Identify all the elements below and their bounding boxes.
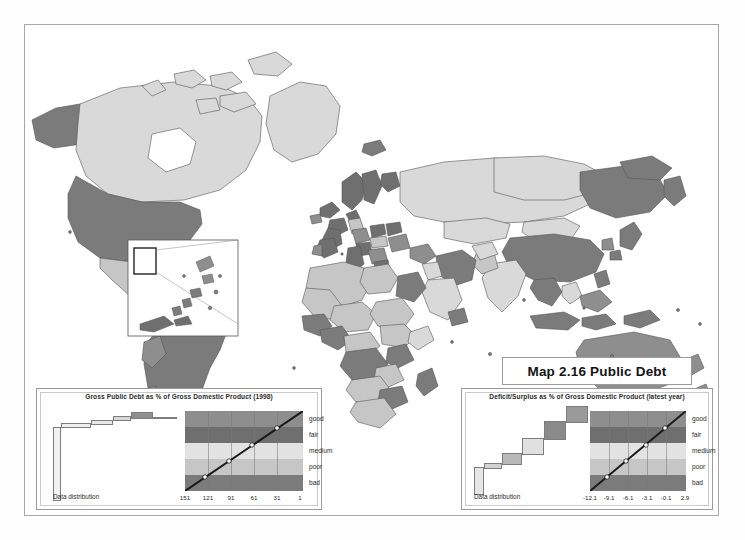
- legend-left-tick-4: 31: [267, 494, 287, 501]
- legend-right-class-bad: bad: [692, 479, 703, 486]
- legend-left-tick-3: 61: [244, 494, 264, 501]
- legend-left-tick-5: 1: [290, 494, 310, 501]
- legend-left-class-medium: medium: [309, 447, 332, 454]
- legend-right-distribution: [474, 405, 588, 497]
- legend-left-title: Gross Public Debt as % of Gross Domestic…: [37, 393, 321, 400]
- legend-right-class-poor: poor: [692, 463, 705, 470]
- legend-left-distribution: [53, 411, 177, 503]
- legend-left-class-poor: poor: [309, 463, 322, 470]
- legend-left-diagonal: [185, 411, 303, 491]
- legend-left-class-good: good: [309, 415, 324, 422]
- legend-left-class-fair: fair: [309, 431, 318, 438]
- legend-left-tick-1: 121: [198, 494, 218, 501]
- legend-right-tick-5: 2.9: [674, 494, 696, 501]
- legend-left-class-bad: bad: [309, 479, 320, 486]
- legend-right-class-medium: medium: [692, 447, 715, 454]
- map-title: Map 2.16 Public Debt: [527, 364, 666, 379]
- map-page: Map 2.16 Public Debt Gross Public Debt a…: [0, 0, 745, 540]
- map-title-box: Map 2.16 Public Debt: [502, 357, 692, 385]
- legend-right-class-good: good: [692, 415, 707, 422]
- legend-panel-left[interactable]: Gross Public Debt as % of Gross Domestic…: [36, 388, 322, 510]
- legend-left-tick-0: 151: [175, 494, 195, 501]
- legend-panel-right[interactable]: Deficit/Surplus as % of Gross Domestic P…: [461, 388, 713, 510]
- legend-left-distribution-label: Data distribution: [53, 493, 99, 500]
- caribbean-inset-group: [128, 240, 238, 336]
- legend-right-diagonal: [590, 411, 686, 491]
- legend-right-class-fair: fair: [692, 431, 701, 438]
- legend-right-distribution-label: Data distribution: [474, 493, 520, 500]
- legend-left-tick-2: 91: [221, 494, 241, 501]
- legend-right-title: Deficit/Surplus as % of Gross Domestic P…: [462, 393, 712, 400]
- legend-right-matrix: [590, 411, 686, 491]
- legend-left-matrix: [185, 411, 303, 491]
